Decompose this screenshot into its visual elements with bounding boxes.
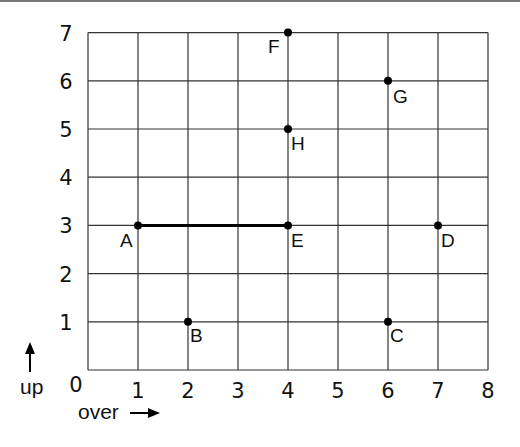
y-tick-label: 2: [59, 263, 72, 287]
y-tick-label: 5: [59, 118, 72, 142]
point-F-dot: [284, 29, 292, 37]
point-D-label: D: [441, 230, 455, 251]
x-tick-label: 0: [69, 373, 82, 397]
x-tick-label: 2: [181, 379, 194, 403]
point-F-label: F: [268, 36, 280, 57]
y-tick-label: 1: [59, 311, 72, 335]
up-arrow-icon: [25, 342, 35, 354]
x-tick-label: 7: [431, 379, 444, 403]
point-C-label: C: [390, 325, 404, 346]
y-tick-label: 6: [59, 70, 72, 94]
point-H-dot: [284, 125, 292, 133]
point-B-label: B: [190, 325, 203, 346]
point-H-label: H: [291, 133, 305, 154]
y-tick-label: 4: [59, 166, 72, 190]
x-tick-label: 5: [331, 379, 344, 403]
point-D-dot: [434, 221, 442, 229]
x-tick-label: 3: [231, 379, 244, 403]
point-G-label: G: [393, 86, 408, 107]
x-tick-label: 4: [281, 379, 294, 403]
x-tick-label: 1: [131, 379, 144, 403]
coordinate-grid: 0123456781234567ABCDEFGHupover: [0, 0, 520, 447]
point-A-label: A: [120, 230, 133, 251]
y-tick-label: 7: [59, 22, 72, 46]
y-tick-label: 3: [59, 214, 72, 238]
point-E-dot: [284, 221, 292, 229]
point-G-dot: [384, 77, 392, 85]
x-tick-label: 8: [481, 379, 494, 403]
point-A-dot: [134, 221, 142, 229]
x-tick-label: 6: [381, 379, 394, 403]
right-arrow-icon: [148, 408, 160, 418]
x-axis-label: over: [78, 400, 119, 423]
y-axis-label: up: [20, 375, 43, 398]
point-E-label: E: [291, 230, 304, 251]
